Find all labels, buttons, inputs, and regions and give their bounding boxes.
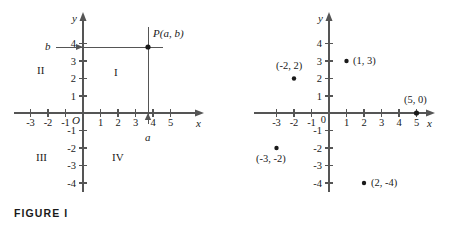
quadrant-label-4: IV: [112, 152, 124, 163]
y-tick-label: 2: [62, 74, 76, 85]
x-tick-label: 3: [376, 118, 388, 129]
quadrant-label-1: I: [114, 67, 118, 78]
x-tick-label: 2: [358, 118, 370, 129]
y-tick-label: -4: [304, 179, 322, 190]
x-tick-label: 5: [411, 118, 423, 129]
point-label-neg3-neg2: (-3, -2): [256, 154, 286, 165]
x-axis-arrowhead: [195, 110, 204, 117]
y-tick-label: -2: [304, 144, 322, 155]
y-tick-label: 1: [308, 92, 322, 103]
y-tick-label: -4: [58, 179, 76, 190]
x-tick-label: 3: [130, 118, 142, 129]
y-axis-arrowhead: [80, 12, 87, 21]
x-tick-label: -2: [40, 118, 56, 129]
y-axis-label: y: [318, 13, 323, 24]
x-tick-label: 4: [393, 118, 405, 129]
x-tick-label: -3: [269, 118, 285, 129]
x-axis-arrowhead: [426, 110, 435, 117]
x-axis-label: x: [427, 118, 432, 129]
point-label-2-neg4: (2, -4): [371, 178, 397, 189]
point-marker-neg3-neg2: [274, 146, 278, 150]
x-tick-label: 5: [165, 118, 177, 129]
y-axis-arrowhead: [326, 12, 333, 21]
y-tick-label: -1: [58, 126, 76, 137]
y-tick-label: -3: [58, 161, 76, 172]
a-coordinate-label: a: [145, 132, 151, 143]
x-tick-label: -3: [23, 118, 39, 129]
y-tick-label: 3: [308, 57, 322, 68]
point-label-1-3: (1, 3): [353, 56, 376, 67]
x-tick-label: 2: [112, 118, 124, 129]
y-tick-label: 3: [62, 57, 76, 68]
x-tick-label: 1: [341, 118, 353, 129]
b-pointer-arrowhead: [76, 44, 83, 50]
y-tick-label: 4: [62, 39, 76, 50]
y-axis-label: y: [72, 13, 77, 24]
point-marker-2-neg4: [362, 181, 366, 185]
quadrant-label-3: III: [36, 152, 47, 163]
y-tick-label: -1: [304, 126, 322, 137]
x-tick-label: 4: [147, 118, 159, 129]
y-tick-label: 4: [308, 39, 322, 50]
point-marker-5-0: [414, 110, 419, 115]
figure-1-caption: FIGURE I: [14, 207, 68, 219]
x-axis-label: x: [196, 118, 201, 129]
figure-1-axes-svg: [0, 0, 228, 200]
point-label-neg2-2: (-2, 2): [276, 61, 302, 72]
figure-1-panel: x y O -3 -2 -1 1 2 3 4 5 4 3 2 1 -1 -2 -…: [0, 0, 228, 238]
y-tick-label: -3: [304, 161, 322, 172]
point-P-label: P(a, b): [153, 28, 184, 39]
b-coordinate-label: b: [45, 41, 51, 52]
quadrant-label-2: II: [37, 65, 44, 76]
x-tick-label: 1: [95, 118, 107, 129]
point-marker-neg2-2: [292, 76, 296, 80]
figure-1-plot: [0, 0, 228, 200]
point-marker-1-3: [344, 59, 348, 63]
point-P-marker: [145, 44, 150, 49]
x-tick-label: -2: [286, 118, 302, 129]
y-tick-label: 1: [62, 92, 76, 103]
y-tick-label: -2: [58, 144, 76, 155]
figure-2-panel: x y 0 -3 -2 -1 1 2 3 4 5 4 3 2 1 -1 -2 -…: [228, 0, 456, 238]
y-tick-label: 2: [308, 74, 322, 85]
point-label-5-0: (5, 0): [404, 95, 427, 106]
